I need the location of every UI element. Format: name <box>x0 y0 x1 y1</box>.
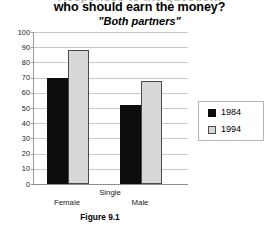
plot-area <box>33 32 187 185</box>
y-axis-tick-mark <box>31 93 34 94</box>
y-axis-tick-mark <box>31 123 34 124</box>
legend-item-1994: 1994 <box>208 125 241 134</box>
bar-female-1984 <box>47 78 68 184</box>
y-axis-tick-mark <box>31 62 34 63</box>
y-axis-tick-label: 70 <box>2 74 30 81</box>
y-axis-tick-mark <box>31 78 34 79</box>
gray-square-swatch-icon <box>208 126 216 134</box>
black-square-swatch-icon <box>208 109 216 117</box>
gridline <box>34 62 188 63</box>
y-axis-tick-mark <box>31 32 34 33</box>
y-axis-tick-label: 80 <box>2 59 30 66</box>
y-axis-tick-label: 20 <box>2 150 30 157</box>
y-axis-tick-label: 30 <box>2 135 30 142</box>
chart-subtitle: "Both partners" <box>0 15 279 27</box>
y-axis-tick-label: 40 <box>2 120 30 127</box>
y-axis-tick-mark <box>31 138 34 139</box>
y-axis-tick-label: 10 <box>2 165 30 172</box>
legend-item-1984: 1984 <box>208 108 241 117</box>
bar-female-1994 <box>68 50 89 184</box>
y-axis-tick-label: 50 <box>2 105 30 112</box>
x-axis-group-header: Single <box>80 188 140 197</box>
y-axis-tick-mark <box>31 169 34 170</box>
x-axis-label-female: Female <box>37 198 97 207</box>
legend-label-1994: 1994 <box>221 125 241 134</box>
gridline <box>34 47 188 48</box>
y-axis-tick-label: 100 <box>2 29 30 36</box>
figure-caption: Figure 9.1 <box>0 212 200 222</box>
y-axis-tick-mark <box>31 154 34 155</box>
bar-male-1994 <box>141 81 162 184</box>
bar-male-1984 <box>120 105 141 184</box>
y-axis-tick-label: 90 <box>2 44 30 51</box>
y-axis-tick-label: 60 <box>2 89 30 96</box>
figure-9-1: Responses to the question: who should ea… <box>0 0 279 243</box>
chart-legend: 1984 1994 <box>198 101 264 141</box>
y-axis-tick-mark <box>31 108 34 109</box>
x-axis-label-male: Male <box>110 198 170 207</box>
y-axis-tick-label: 0 <box>2 181 30 188</box>
x-axis-baseline <box>34 184 188 185</box>
y-axis-tick-mark <box>31 47 34 48</box>
chart-title: who should earn the money? <box>0 1 279 14</box>
legend-label-1984: 1984 <box>221 108 241 117</box>
gridline <box>34 32 188 33</box>
